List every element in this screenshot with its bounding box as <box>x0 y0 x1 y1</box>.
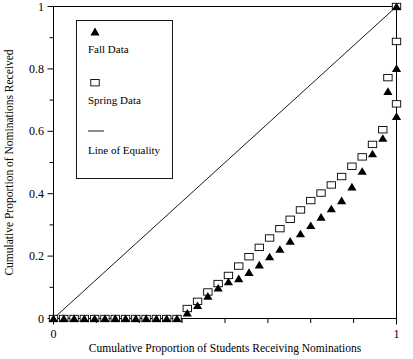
data-point-spring <box>327 182 335 188</box>
data-point-spring <box>384 74 392 80</box>
data-point-spring <box>317 190 325 196</box>
legend-label-spring: Spring Data <box>88 94 141 106</box>
y-tick-label-0.4: 0.4 <box>29 187 44 201</box>
y-tick-label-0.8: 0.8 <box>29 62 44 76</box>
data-point-spring <box>392 101 400 107</box>
legend-marker-spring-square-icon <box>91 80 99 86</box>
y-tick-label-0: 0 <box>38 312 44 326</box>
data-point-spring <box>358 154 366 160</box>
y-tick-label-1: 1 <box>38 0 44 14</box>
x-tick-label-1: 1 <box>394 327 400 341</box>
data-point-spring <box>368 141 376 147</box>
data-point-spring <box>307 197 315 203</box>
data-point-spring <box>337 173 345 179</box>
legend-label-fall: Fall Data <box>88 43 129 55</box>
data-point-spring <box>276 225 284 231</box>
chart-svg: 0 0.2 0.4 0.6 0.8 1 0 1 Fall Data Spring… <box>0 0 413 359</box>
data-point-spring <box>296 207 304 213</box>
data-point-spring <box>348 163 356 169</box>
data-point-spring <box>245 254 253 260</box>
legend-label-equality: Line of Equality <box>88 144 161 156</box>
data-point-spring <box>235 263 243 269</box>
x-axis-title: Cumulative Proportion of Students Receiv… <box>89 342 362 355</box>
data-point-spring <box>392 38 400 44</box>
y-axis-title: Cumulative Proportion of Nominations Rec… <box>3 49 16 275</box>
data-point-spring <box>255 244 263 250</box>
legend: Fall Data Spring Data Line of Equality <box>77 21 173 179</box>
x-tick-label-0: 0 <box>51 327 57 341</box>
y-tick-label-0.2: 0.2 <box>29 249 44 263</box>
data-point-spring <box>379 127 387 133</box>
y-tick-label-0.6: 0.6 <box>29 124 44 138</box>
data-point-spring <box>265 235 273 241</box>
lorenz-curve-figure: 0 0.2 0.4 0.6 0.8 1 0 1 Fall Data Spring… <box>0 0 413 359</box>
data-point-spring <box>286 216 294 222</box>
